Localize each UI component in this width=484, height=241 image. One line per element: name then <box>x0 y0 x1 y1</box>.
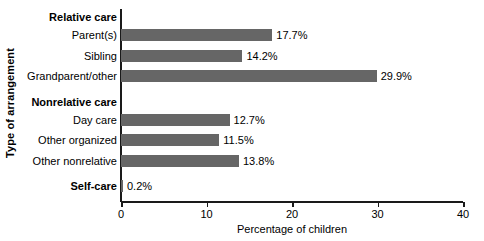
bar <box>121 155 239 167</box>
bar-value-label: 29.9% <box>381 70 412 82</box>
bar-value-label: 14.2% <box>246 50 277 62</box>
x-axis-title: Percentage of children <box>121 223 463 235</box>
x-axis-tick-label: 40 <box>457 208 469 220</box>
bar-value-label: 12.7% <box>234 114 265 126</box>
x-axis-tick <box>292 202 294 207</box>
plot-area: Relative careParent(s)17.7%Sibling14.2%G… <box>0 0 484 241</box>
bar <box>121 180 123 192</box>
bar-value-label: 0.2% <box>127 180 152 192</box>
x-axis-tick <box>121 202 123 207</box>
bar <box>121 114 230 126</box>
category-label: Sibling <box>0 50 121 62</box>
category-label: Other organized <box>0 134 121 146</box>
category-label: Parent(s) <box>0 29 121 41</box>
x-axis-tick <box>378 202 380 207</box>
x-axis-tick-label: 10 <box>200 208 212 220</box>
bar <box>121 50 242 62</box>
group-header-label: Nonrelative care <box>0 96 121 108</box>
category-label: Day care <box>0 114 121 126</box>
x-axis-tick <box>463 202 465 207</box>
bar-chart: Type of arrangement Relative careParent(… <box>0 0 484 241</box>
bar <box>121 134 219 146</box>
x-axis-tick-label: 30 <box>371 208 383 220</box>
group-header-label: Relative care <box>0 11 121 23</box>
category-label: Self-care <box>0 180 121 192</box>
x-axis-tick <box>207 202 209 207</box>
x-axis-tick-label: 20 <box>286 208 298 220</box>
x-axis-tick-label: 0 <box>118 208 124 220</box>
category-label: Other nonrelative <box>0 155 121 167</box>
bar-value-label: 11.5% <box>223 134 253 146</box>
bar-value-label: 13.8% <box>243 155 274 167</box>
bar <box>121 29 272 41</box>
bar <box>121 70 377 82</box>
bar-value-label: 17.7% <box>276 29 307 41</box>
category-label: Grandparent/other <box>0 70 121 82</box>
